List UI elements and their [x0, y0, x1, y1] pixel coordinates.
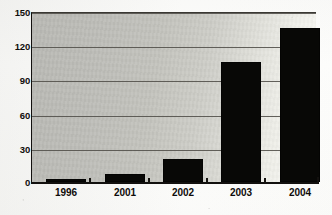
x-axis-tick-3: [264, 178, 266, 184]
x-axis-label-2003: 2003: [217, 188, 265, 198]
y-axis-tick-label-90: 90: [2, 76, 30, 86]
gridline-90: [32, 81, 316, 82]
x-axis-label-1996: 1996: [42, 188, 90, 198]
x-axis-tick-1: [148, 178, 150, 184]
gridline-30: [32, 150, 316, 151]
y-axis-tick-label-30: 30: [2, 145, 30, 155]
x-axis-tick-0: [89, 178, 91, 184]
x-axis-label-2001: 2001: [101, 188, 149, 198]
x-axis-line: [31, 182, 319, 184]
bar-chart-figure: 150 120 90 60 30 0 1996 2001 2002 2003 2…: [0, 0, 332, 215]
y-axis-tick-label-150: 150: [2, 8, 30, 18]
gridline-120: [32, 47, 316, 48]
bar-2004: [280, 28, 320, 182]
x-axis-label-2002: 2002: [159, 188, 207, 198]
gridline-60: [32, 116, 316, 117]
gridline-150: [32, 13, 316, 14]
bar-2003: [221, 62, 261, 182]
bar-2002: [163, 159, 203, 182]
bar-2001: [105, 174, 145, 182]
plot-area: [31, 12, 316, 183]
x-axis-right-tick: [317, 177, 319, 184]
y-axis-tick-label-60: 60: [2, 111, 30, 121]
plot-background: [32, 13, 316, 183]
y-axis-tick-label-0: 0: [2, 178, 30, 188]
x-axis-label-2004: 2004: [276, 188, 324, 198]
y-axis-tick-label-120: 120: [2, 42, 30, 52]
x-axis-tick-2: [206, 178, 208, 184]
